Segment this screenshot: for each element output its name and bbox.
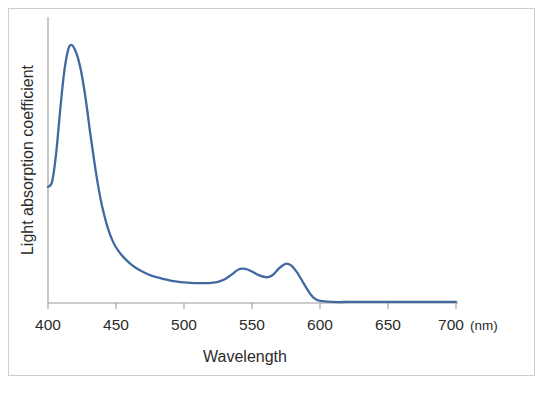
x-tick-label-500: 500	[171, 316, 197, 333]
x-tick-label-550: 550	[239, 316, 265, 333]
x-tick-label-700: 700	[438, 316, 464, 333]
x-axis-tick-labels: 400 450 500 550 600 650 700	[35, 316, 464, 333]
figure-root: 400 450 500 550 600 650 700 (nm) Wavelen…	[0, 0, 547, 396]
absorption-spectrum-chart: 400 450 500 550 600 650 700 (nm) Wavelen…	[0, 0, 547, 396]
x-tick-label-400: 400	[35, 316, 61, 333]
x-axis-title: Wavelength	[203, 348, 287, 365]
x-tick-label-600: 600	[307, 316, 333, 333]
x-tick-label-650: 650	[375, 316, 401, 333]
x-tick-label-450: 450	[103, 316, 129, 333]
x-axis-tick-marks	[48, 303, 456, 309]
spectrum-curve	[48, 45, 456, 302]
y-axis-title: Light absorption coefficient	[19, 64, 36, 255]
x-axis-unit-label: (nm)	[470, 318, 498, 333]
